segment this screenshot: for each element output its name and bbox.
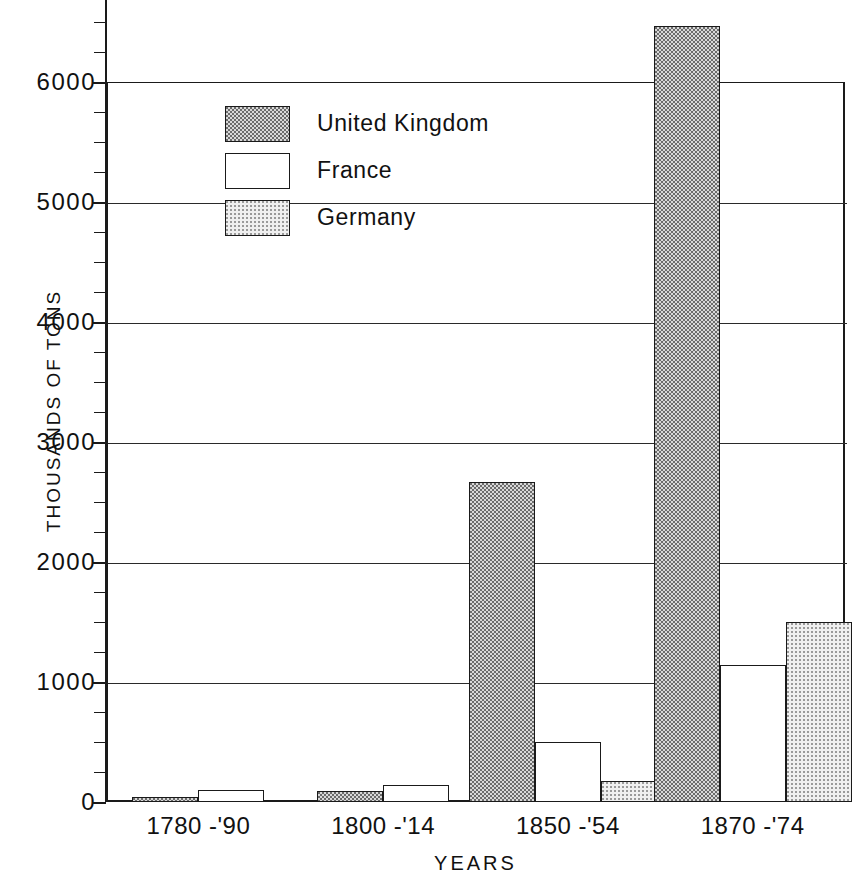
bar-france bbox=[720, 665, 786, 802]
y-axis-minor-tick bbox=[94, 712, 106, 713]
legend-swatch-france bbox=[225, 153, 290, 189]
y-tick-label: 1000 bbox=[4, 668, 96, 696]
x-tick-label: 1780 -'90 bbox=[146, 812, 250, 840]
y-axis-minor-tick bbox=[94, 472, 106, 473]
y-axis-major-tick bbox=[92, 442, 106, 444]
y-tick-label: 2000 bbox=[4, 548, 96, 576]
y-axis-minor-tick bbox=[94, 502, 106, 503]
legend-item: France bbox=[225, 147, 545, 194]
bar-united-kingdom bbox=[317, 791, 383, 802]
y-axis-minor-tick bbox=[94, 412, 106, 413]
y-axis-minor-tick bbox=[94, 772, 106, 773]
y-axis-major-tick bbox=[92, 322, 106, 324]
y-tick-label: 5000 bbox=[4, 188, 96, 216]
y-tick-label: 3000 bbox=[4, 428, 96, 456]
bar-germany bbox=[786, 622, 852, 802]
legend-swatch-united-kingdom bbox=[225, 106, 290, 142]
legend-swatch-germany bbox=[225, 200, 290, 236]
y-axis-minor-tick bbox=[94, 262, 106, 263]
legend-label: France bbox=[317, 157, 392, 184]
y-axis-minor-tick bbox=[94, 592, 106, 593]
y-axis-minor-tick bbox=[94, 532, 106, 533]
x-axis-tick-labels: 1780 -'901800 -'141850 -'541870 -'74 bbox=[106, 812, 845, 852]
x-tick-label: 1850 -'54 bbox=[516, 812, 620, 840]
y-axis-minor-tick bbox=[94, 742, 106, 743]
bar-united-kingdom bbox=[469, 482, 535, 802]
bar-france bbox=[535, 742, 601, 802]
y-axis-minor-tick bbox=[94, 352, 106, 353]
legend-item: Germany bbox=[225, 194, 545, 241]
y-axis-minor-tick bbox=[94, 112, 106, 113]
legend-label: United Kingdom bbox=[317, 110, 489, 137]
bar-chart-figure: THOUSANDS OF TONS 0100020003000400050006… bbox=[0, 0, 864, 886]
y-axis-minor-tick bbox=[94, 622, 106, 623]
grid-line bbox=[108, 443, 847, 444]
y-tick-label: 6000 bbox=[4, 68, 96, 96]
y-tick-label: 0 bbox=[4, 788, 96, 816]
x-tick-label: 1800 -'14 bbox=[331, 812, 435, 840]
legend-item: United Kingdom bbox=[225, 100, 545, 147]
y-axis-minor-tick bbox=[94, 52, 106, 53]
legend-label: Germany bbox=[317, 204, 416, 231]
y-tick-label: 4000 bbox=[4, 308, 96, 336]
y-axis-minor-tick bbox=[94, 292, 106, 293]
x-axis-title: YEARS bbox=[106, 852, 845, 875]
y-axis-minor-tick bbox=[94, 22, 106, 23]
y-axis-minor-tick bbox=[94, 232, 106, 233]
y-axis-tick-labels: 0100020003000400050006000 bbox=[0, 0, 96, 886]
bar-united-kingdom bbox=[132, 797, 198, 802]
y-axis-minor-tick bbox=[94, 382, 106, 383]
bar-france bbox=[383, 785, 449, 802]
y-axis-major-tick bbox=[92, 202, 106, 204]
y-axis-major-tick bbox=[92, 802, 106, 804]
y-axis-major-tick bbox=[92, 682, 106, 684]
y-axis-major-tick bbox=[92, 82, 106, 84]
bar-france bbox=[198, 790, 264, 802]
y-axis-major-tick bbox=[92, 562, 106, 564]
legend: United KingdomFranceGermany bbox=[225, 100, 545, 241]
y-axis-minor-tick bbox=[94, 142, 106, 143]
grid-line bbox=[108, 323, 847, 324]
bar-united-kingdom bbox=[654, 26, 720, 802]
y-axis-minor-tick bbox=[94, 652, 106, 653]
x-tick-label: 1870 -'74 bbox=[701, 812, 805, 840]
y-axis-minor-tick bbox=[94, 172, 106, 173]
